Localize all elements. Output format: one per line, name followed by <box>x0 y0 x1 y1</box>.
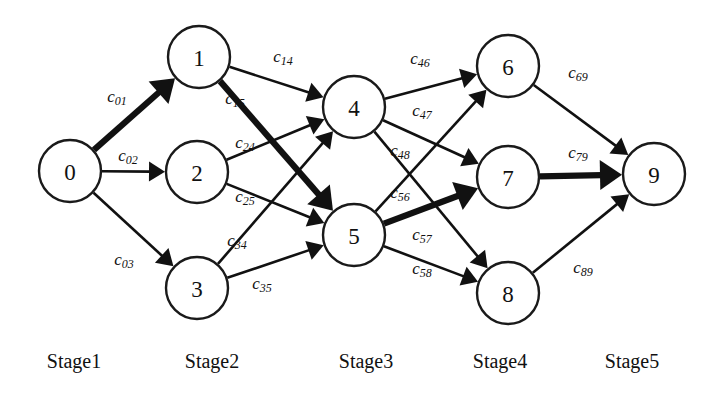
node-2[interactable]: 2 <box>166 141 228 203</box>
node-label-3: 3 <box>191 277 203 302</box>
edge-7-to-9 <box>540 175 602 176</box>
edge-3-to-5 <box>227 250 310 278</box>
arrowhead-4-to-6 <box>459 69 477 88</box>
edge-6-to-9 <box>534 85 617 146</box>
edge-label-7-9: c79 <box>568 143 588 165</box>
stage-label-stage3: Stage3 <box>339 350 393 373</box>
edge-label-2-5: c25 <box>235 187 255 209</box>
arrowhead-0-to-2 <box>149 162 165 182</box>
stage-label-stage5: Stage5 <box>605 350 659 373</box>
stage-label-stage4: Stage4 <box>473 350 527 373</box>
node-7[interactable]: 7 <box>477 146 539 208</box>
edge-label-8-9: c89 <box>573 258 593 280</box>
edge-label-0-3: c03 <box>114 250 134 272</box>
edge-label-4-8: c48 <box>390 141 410 163</box>
edge-label-1-4: c14 <box>273 47 293 69</box>
arrowhead-8-to-9 <box>610 194 629 212</box>
edge-label-4-6: c46 <box>410 49 430 71</box>
node-0[interactable]: 0 <box>39 140 101 202</box>
edge-label-0-1: c01 <box>107 87 127 109</box>
graph-canvas: 0123456789 c01c02c03c14c15c24c25c34c35c4… <box>0 0 716 409</box>
node-label-4: 4 <box>348 96 360 121</box>
node-8[interactable]: 8 <box>477 262 539 324</box>
stage-label-stage1: Stage1 <box>47 350 101 373</box>
edge-label-0-2: c02 <box>118 146 138 168</box>
node-label-9: 9 <box>648 163 660 188</box>
edge-label-3-5: c35 <box>252 274 272 296</box>
node-label-6: 6 <box>502 55 514 80</box>
edge-0-to-1 <box>94 92 160 150</box>
node-label-8: 8 <box>502 282 514 307</box>
edge-label-4-7: c47 <box>412 101 433 123</box>
node-label-5: 5 <box>348 224 360 249</box>
node-label-1: 1 <box>193 46 205 71</box>
node-label-0: 0 <box>64 160 76 185</box>
node-9[interactable]: 9 <box>623 143 685 205</box>
edge-label-2-4: c24 <box>235 133 255 155</box>
edge-label-1-5: c15 <box>225 89 245 111</box>
stage-label-stage2: Stage2 <box>185 350 239 373</box>
edge-label-5-7: c57 <box>412 225 433 247</box>
node-6[interactable]: 6 <box>477 35 539 97</box>
edge-1-to-4 <box>229 67 309 93</box>
node-label-7: 7 <box>502 166 514 191</box>
edge-4-to-6 <box>385 78 463 99</box>
node-3[interactable]: 3 <box>166 257 228 319</box>
node-1[interactable]: 1 <box>168 26 230 88</box>
edge-label-6-9: c69 <box>568 63 588 85</box>
arrowhead-7-to-9 <box>600 160 622 190</box>
arrowhead-6-to-9 <box>609 137 628 155</box>
node-4[interactable]: 4 <box>323 76 385 138</box>
multistage-graph-figure: 0123456789 c01c02c03c14c15c24c25c34c35c4… <box>0 0 716 409</box>
edge-0-to-3 <box>94 193 163 257</box>
node-label-2: 2 <box>191 161 203 186</box>
node-5[interactable]: 5 <box>323 204 385 266</box>
arrowhead-4-to-8 <box>470 250 488 269</box>
